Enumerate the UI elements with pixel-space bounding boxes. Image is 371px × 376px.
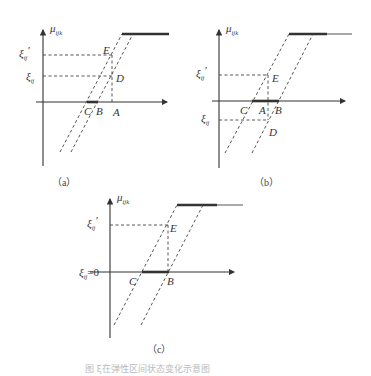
point-a: A (258, 104, 266, 116)
point-d: D (115, 72, 124, 84)
point-e: E (169, 222, 177, 234)
point-b: B (275, 104, 282, 116)
panel-b-caption: （b） (254, 177, 279, 188)
panel-c: μijk ξij′ ξij=0 E C B （c） (79, 191, 243, 355)
point-c: C (129, 275, 137, 287)
xi-prime-label: ξij′ (196, 64, 207, 81)
y-axis-label: μijk (225, 22, 238, 36)
left-diagonal (60, 34, 122, 152)
left-diagonal (225, 34, 289, 153)
xi-label: ξij (26, 70, 35, 84)
y-axis-label: μijk (49, 22, 62, 36)
hysteresis-diagram: μijk ξij′ ξij E D C B A （a） μijk ξij′ ξi… (0, 0, 371, 376)
xi-zero-label: ξij=0 (79, 266, 100, 280)
panel-c-caption: （c） (147, 344, 171, 355)
panel-a: μijk ξij′ ξij E D C B A （a） (19, 22, 169, 188)
xi-prime-label: ξij′ (87, 214, 98, 231)
point-e: E (102, 44, 110, 56)
point-a: A (112, 106, 120, 118)
point-d: D (268, 126, 277, 138)
point-b: B (167, 275, 174, 287)
panel-a-caption: （a） (52, 177, 76, 188)
point-c: C (84, 105, 92, 117)
point-c: C (240, 104, 248, 116)
point-b: B (96, 105, 103, 117)
right-diagonal (71, 34, 133, 152)
figure-caption: 图 ξ在弹性区间状态变化示意图 (85, 363, 210, 374)
panel-b: μijk ξij′ ξij E C A B D （b） (196, 22, 352, 188)
xi-prime-label: ξij′ (19, 44, 30, 61)
y-axis-label: μijk (116, 191, 129, 205)
point-e: E (271, 72, 279, 84)
right-diagonal (252, 34, 313, 153)
xi-label: ξij (201, 112, 210, 126)
